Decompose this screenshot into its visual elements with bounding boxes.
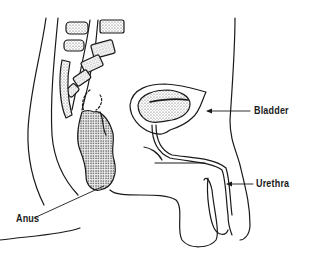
front-outline (230, 18, 250, 240)
rectum (78, 111, 115, 191)
back-outline (28, 18, 46, 205)
label-anus: Anus (16, 213, 39, 224)
vertebra (66, 22, 88, 34)
label-bladder: Bladder (254, 105, 289, 116)
label-urethra: Urethra (256, 178, 289, 189)
scrotum (110, 178, 217, 246)
anatomy-diagram: Bladder Urethra Anus (0, 0, 310, 263)
urethra (152, 125, 232, 235)
pelvis-illustration (0, 0, 310, 263)
